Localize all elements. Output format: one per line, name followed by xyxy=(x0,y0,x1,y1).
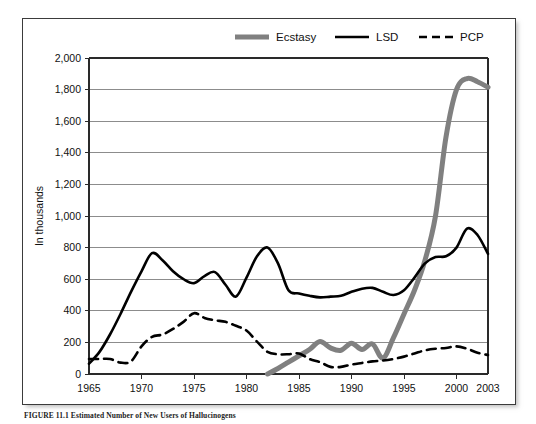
chart-legend: EcstasyLSDPCP xyxy=(235,31,484,43)
y-tick-label: 1,800 xyxy=(55,83,81,95)
figure-frame: EcstasyLSDPCP 02004006008001,0001,2001,4… xyxy=(22,18,516,405)
x-tick-label: 1965 xyxy=(77,382,101,394)
y-tick-label: 1,400 xyxy=(55,146,81,158)
x-tick-label: 1980 xyxy=(235,382,259,394)
gridlines xyxy=(89,58,488,342)
hallucinogen-new-users-line-chart: EcstasyLSDPCP 02004006008001,0001,2001,4… xyxy=(23,19,515,404)
legend-label-ecstasy: Ecstasy xyxy=(276,31,317,43)
data-series xyxy=(89,78,488,374)
y-tick-label: 1,600 xyxy=(55,115,81,127)
y-tick-label: 0 xyxy=(75,368,81,380)
x-tick-label: 1995 xyxy=(392,382,416,394)
x-tick-label: 1970 xyxy=(130,382,154,394)
x-tick-label: 1975 xyxy=(182,382,206,394)
legend-label-pcp: PCP xyxy=(460,31,484,43)
y-tick-label: 2,000 xyxy=(55,52,81,64)
x-tick-label: 1985 xyxy=(287,382,311,394)
axes xyxy=(85,58,488,379)
y-tick-label: 600 xyxy=(63,273,81,285)
legend-label-lsd: LSD xyxy=(376,31,398,43)
x-tick-label: 1990 xyxy=(340,382,364,394)
series-line-ecstasy xyxy=(268,78,489,374)
x-tick-label: 2003 xyxy=(476,382,500,394)
y-axis-tick-labels: 02004006008001,0001,2001,4001,6001,8002,… xyxy=(55,52,81,380)
y-axis-title: In thousands xyxy=(33,186,45,246)
y-tick-label: 1,000 xyxy=(55,210,81,222)
x-tick-label: 2000 xyxy=(445,382,469,394)
y-tick-label: 800 xyxy=(63,241,81,253)
y-tick-label: 1,200 xyxy=(55,178,81,190)
y-tick-label: 400 xyxy=(63,304,81,316)
y-tick-label: 200 xyxy=(63,336,81,348)
series-line-pcp xyxy=(89,313,488,367)
x-axis-tick-labels: 196519701975198019851990199520002003 xyxy=(77,382,500,394)
figure-caption: FIGURE 11.1 Estimated Number of New User… xyxy=(24,411,504,423)
